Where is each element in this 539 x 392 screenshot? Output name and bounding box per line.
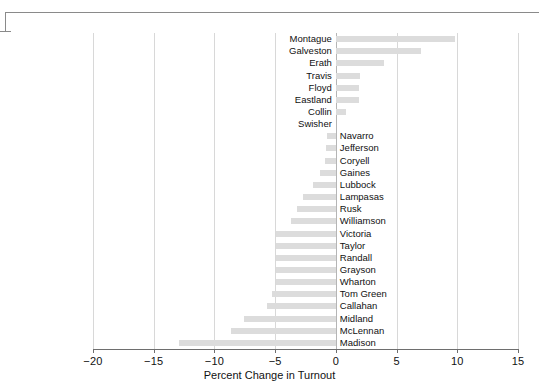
gridline--20 bbox=[93, 33, 94, 349]
category-label: Grayson bbox=[340, 265, 376, 275]
tick-mark--20 bbox=[93, 349, 94, 353]
category-label: Victoria bbox=[340, 229, 372, 239]
bar bbox=[336, 109, 346, 115]
category-label: Lubbock bbox=[340, 180, 376, 190]
category-label: Wharton bbox=[340, 277, 376, 287]
gridline-0 bbox=[336, 33, 337, 349]
gridline-10 bbox=[457, 33, 458, 349]
bar bbox=[291, 218, 336, 224]
category-label: Floyd bbox=[309, 83, 332, 93]
tick-label-10: 10 bbox=[451, 355, 464, 367]
bar bbox=[336, 60, 385, 66]
category-label: Travis bbox=[306, 71, 332, 81]
category-label: Galveston bbox=[289, 46, 332, 56]
bar bbox=[327, 133, 336, 139]
category-label: Coryell bbox=[340, 156, 370, 166]
bar bbox=[326, 145, 336, 151]
tick-label-5: 5 bbox=[393, 355, 399, 367]
bar bbox=[336, 85, 359, 91]
category-label: Rusk bbox=[340, 204, 362, 214]
tick-label--10: −10 bbox=[205, 355, 224, 367]
gridline-5 bbox=[397, 33, 398, 349]
tick-mark-0 bbox=[336, 349, 337, 353]
bar bbox=[231, 328, 335, 334]
bar bbox=[303, 194, 336, 200]
bar bbox=[272, 291, 336, 297]
left-bracket-foot bbox=[0, 31, 11, 32]
bar bbox=[313, 182, 336, 188]
bar bbox=[325, 158, 336, 164]
bar bbox=[276, 279, 336, 285]
bar bbox=[320, 170, 336, 176]
tick-mark-5 bbox=[397, 349, 398, 353]
category-label: Collin bbox=[308, 107, 332, 117]
bar bbox=[297, 206, 336, 212]
category-label: Tom Green bbox=[340, 289, 387, 299]
left-bracket bbox=[5, 12, 6, 32]
bar bbox=[276, 231, 336, 237]
category-label: Callahan bbox=[340, 301, 378, 311]
gridline--10 bbox=[214, 33, 215, 349]
x-axis-line bbox=[93, 349, 519, 350]
category-label: Gaines bbox=[340, 168, 370, 178]
bar bbox=[179, 340, 336, 346]
tick-label--5: −5 bbox=[269, 355, 282, 367]
category-label: Erath bbox=[309, 58, 332, 68]
category-label: Jefferson bbox=[340, 143, 379, 153]
tick-mark--5 bbox=[275, 349, 276, 353]
bar bbox=[336, 36, 455, 42]
tick-label-0: 0 bbox=[333, 355, 339, 367]
gridline-15 bbox=[518, 33, 519, 349]
bar bbox=[267, 303, 336, 309]
bar bbox=[336, 97, 359, 103]
top-rule bbox=[5, 12, 539, 13]
tick-mark--10 bbox=[214, 349, 215, 353]
category-label: Randall bbox=[340, 253, 372, 263]
chart-figure: −20−15−10−5051015 MontagueGalvestonErath… bbox=[0, 0, 539, 392]
category-label: Lampasas bbox=[340, 192, 384, 202]
category-label: Swisher bbox=[298, 119, 332, 129]
gridline--15 bbox=[154, 33, 155, 349]
gridline--5 bbox=[275, 33, 276, 349]
bar bbox=[276, 267, 336, 273]
x-axis-title: Percent Change in Turnout bbox=[0, 369, 539, 381]
category-label: Navarro bbox=[340, 131, 374, 141]
tick-label--20: −20 bbox=[83, 355, 102, 367]
bar bbox=[336, 73, 360, 79]
bar bbox=[276, 255, 336, 261]
tick-mark-10 bbox=[457, 349, 458, 353]
tick-mark-15 bbox=[518, 349, 519, 353]
category-label: Taylor bbox=[340, 241, 365, 251]
category-label: Montague bbox=[290, 34, 332, 44]
bar bbox=[244, 316, 336, 322]
category-label: McLennan bbox=[340, 326, 384, 336]
tick-label-15: 15 bbox=[512, 355, 525, 367]
category-label: Midland bbox=[340, 314, 373, 324]
tick-label--15: −15 bbox=[144, 355, 163, 367]
category-label: Madison bbox=[340, 338, 376, 348]
bar bbox=[336, 48, 421, 54]
bar bbox=[276, 243, 336, 249]
tick-mark--15 bbox=[154, 349, 155, 353]
category-label: Williamson bbox=[340, 216, 386, 226]
category-label: Eastland bbox=[295, 95, 332, 105]
